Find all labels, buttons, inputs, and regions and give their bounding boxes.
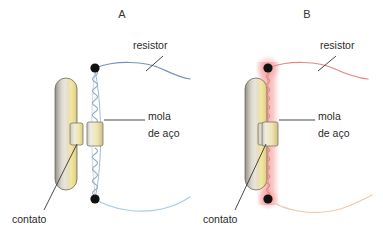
figure-canvas: A resistor mola de xyxy=(0,0,383,241)
thermal-switch-figure: A resistor mola de xyxy=(0,0,383,241)
terminal-node-bottom-b xyxy=(263,194,272,203)
fixed-contact-block-a xyxy=(70,123,83,145)
panel-a-letter: A xyxy=(118,8,126,20)
terminal-node-top-b xyxy=(263,63,272,72)
label-contact-a: contato xyxy=(12,213,47,225)
terminal-node-bottom-a xyxy=(90,194,99,203)
label-spring-line1-b: mola xyxy=(318,110,341,122)
resistor-wire-lower-a xyxy=(95,197,190,211)
label-resistor-b: resistor xyxy=(320,39,355,51)
terminal-node-top-a xyxy=(90,63,99,72)
panel-a: A resistor mola de xyxy=(12,8,190,225)
resistor-wire-lower-b xyxy=(268,195,372,212)
spring-collar-a xyxy=(87,122,103,146)
label-spring-line1-a: mola xyxy=(148,110,171,122)
label-resistor-a: resistor xyxy=(133,39,168,51)
panel-b: B resistor xyxy=(203,8,372,225)
label-spring-line2-a: de aço xyxy=(148,127,180,139)
resistor-wire-upper-a xyxy=(95,62,190,79)
panel-b-letter: B xyxy=(303,8,310,20)
spring-collar-b xyxy=(262,122,278,146)
label-contact-b: contato xyxy=(203,213,238,225)
label-spring-line2-b: de aço xyxy=(318,127,350,139)
